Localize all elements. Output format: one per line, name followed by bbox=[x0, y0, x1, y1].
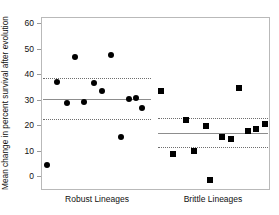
data-point bbox=[64, 100, 70, 106]
y-tick-label-40: 40 bbox=[7, 70, 34, 79]
data-point bbox=[203, 123, 209, 129]
mean-line-1 bbox=[158, 133, 268, 134]
data-point bbox=[133, 95, 139, 101]
data-point bbox=[191, 148, 197, 154]
y-tick-label-0: 0 bbox=[7, 172, 34, 181]
y-tick-label-30: 30 bbox=[7, 96, 34, 105]
ci-upper-line-0 bbox=[43, 78, 151, 79]
x-group-label-brittle: Brittle Lineages bbox=[158, 194, 268, 204]
ci-upper-line-1 bbox=[158, 118, 268, 119]
data-point bbox=[99, 88, 105, 94]
y-tick-label-50: 50 bbox=[7, 45, 34, 54]
data-point bbox=[236, 85, 242, 91]
ci-lower-line-0 bbox=[43, 119, 151, 120]
plot-area bbox=[41, 17, 270, 190]
y-tick-label-10: 10 bbox=[7, 147, 34, 156]
x-group-label-robust: Robust Lineages bbox=[43, 194, 151, 204]
data-point bbox=[54, 79, 60, 85]
data-point bbox=[170, 151, 176, 157]
data-point bbox=[207, 177, 213, 183]
data-point bbox=[183, 117, 189, 123]
data-point bbox=[81, 99, 87, 105]
data-point bbox=[118, 134, 124, 140]
y-tick-label-60: 60 bbox=[7, 19, 34, 28]
data-point bbox=[126, 96, 132, 102]
data-point bbox=[219, 134, 225, 140]
data-point bbox=[262, 121, 268, 127]
y-tick-label-20: 20 bbox=[7, 121, 34, 130]
data-point bbox=[228, 136, 234, 142]
data-point bbox=[139, 105, 145, 111]
data-point bbox=[108, 52, 114, 58]
data-point bbox=[91, 80, 97, 86]
data-point bbox=[72, 54, 78, 60]
data-point bbox=[253, 126, 259, 132]
data-point bbox=[44, 162, 50, 168]
data-point bbox=[245, 128, 251, 134]
ci-lower-line-1 bbox=[158, 147, 268, 148]
data-point bbox=[158, 88, 164, 94]
scatter-chart-figure: Mean change in percent survival after ev… bbox=[0, 0, 279, 215]
